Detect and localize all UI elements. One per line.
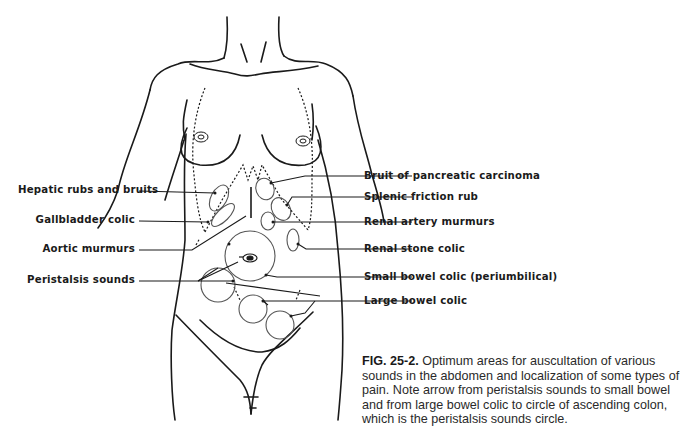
label-peristalsis-sounds: Peristalsis sounds — [18, 274, 135, 286]
label-small-bowel-colic: Small bowel colic (periumbilical) — [364, 271, 557, 283]
label-renal-artery-murmurs: Renal artery murmurs — [364, 216, 495, 228]
costal-margin-dotted — [193, 88, 313, 300]
figure-caption: FIG. 25-2. Optimum areas for auscultatio… — [362, 354, 680, 427]
label-hepatic-rubs: Hepatic rubs and bruits — [18, 184, 135, 196]
label-gallbladder-colic: Gallbladder colic — [18, 214, 135, 226]
umbilicus-icon — [239, 254, 257, 262]
renal-stone-zone — [287, 229, 299, 251]
label-large-bowel-colic: Large bowel colic — [364, 295, 467, 307]
figure-number: FIG. 25-2. — [362, 354, 419, 368]
label-splenic-friction-rub: Splenic friction rub — [364, 191, 478, 203]
peristalsis-zone — [201, 268, 235, 302]
large-bowel-transverse-zone — [239, 295, 267, 323]
label-pancreatic-bruit: Bruit of pancreatic carcinoma — [364, 170, 540, 182]
label-renal-stone-colic: Renal stone colic — [364, 243, 465, 255]
hepatic-zone — [205, 182, 232, 214]
label-aortic-murmurs: Aortic murmurs — [18, 243, 135, 255]
pancreatic-zone — [253, 176, 277, 203]
gallbladder-zone — [208, 200, 238, 230]
nipple-icons — [194, 132, 310, 146]
